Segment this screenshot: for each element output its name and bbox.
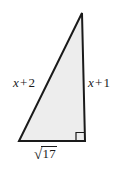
radicand-value: 17 [41,146,56,160]
label-horizontal-leg: √17 [34,146,57,162]
label-vertical-leg-constant: 1 [104,75,111,90]
label-hypotenuse-constant: 2 [29,75,36,90]
label-hypotenuse: x+2 [13,76,35,89]
label-hypotenuse-operator: + [19,75,29,90]
label-vertical-leg-operator: + [94,75,104,90]
triangle-figure: x+2 x+1 √17 [0,0,122,172]
label-vertical-leg: x+1 [88,76,110,89]
radical-expression: √17 [34,146,57,162]
